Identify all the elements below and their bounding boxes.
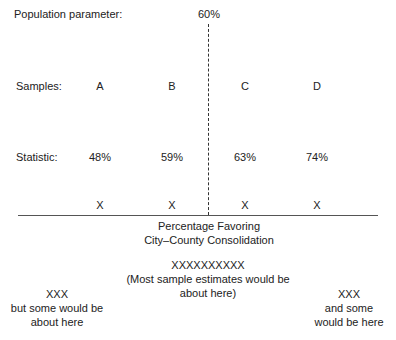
axis-title-line1: Percentage Favoring xyxy=(144,219,274,233)
center-note: XXXXXXXXXX (Most sample estimates would … xyxy=(126,258,289,300)
left-note: XXX but some would be about here xyxy=(11,287,103,329)
right-note-marks: XXX xyxy=(314,287,383,301)
sample-b: B xyxy=(168,80,175,92)
mark-c: X xyxy=(241,199,248,211)
center-note-marks: XXXXXXXXXX xyxy=(126,258,289,272)
population-parameter-value: 60% xyxy=(198,8,220,20)
left-note-line2: about here xyxy=(11,315,103,329)
right-note: XXX and some would be here xyxy=(314,287,383,329)
axis-title: Percentage Favoring City–County Consolid… xyxy=(144,219,274,247)
sample-c: C xyxy=(241,80,249,92)
axis-line xyxy=(18,215,378,216)
right-note-line1: and some xyxy=(314,301,383,315)
mark-a: X xyxy=(96,199,103,211)
samples-label: Samples: xyxy=(16,80,62,92)
center-note-line1: (Most sample estimates would be xyxy=(126,272,289,286)
mark-b: X xyxy=(168,199,175,211)
statistic-label: Statistic: xyxy=(16,151,58,163)
statistic-c: 63% xyxy=(234,151,256,163)
sample-d: D xyxy=(313,80,321,92)
population-parameter-label: Population parameter: xyxy=(14,8,122,20)
left-note-marks: XXX xyxy=(11,287,103,301)
axis-title-line2: City–County Consolidation xyxy=(144,233,274,247)
center-note-line2: about here) xyxy=(126,286,289,300)
mark-d: X xyxy=(313,199,320,211)
sample-a: A xyxy=(96,80,103,92)
left-note-line1: but some would be xyxy=(11,301,103,315)
population-dashed-line xyxy=(208,24,209,215)
right-note-line2: would be here xyxy=(314,315,383,329)
statistic-b: 59% xyxy=(161,151,183,163)
statistic-a: 48% xyxy=(89,151,111,163)
statistic-d: 74% xyxy=(306,151,328,163)
